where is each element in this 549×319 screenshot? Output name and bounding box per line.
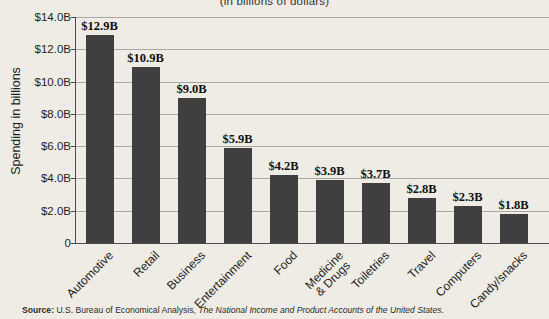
bar-value-label: $12.9B [65, 19, 135, 34]
y-axis-tick-label: $2.0B [11, 205, 71, 217]
source-body: U.S. Bureau of Economical Analysis, [54, 305, 198, 315]
x-axis-line [75, 243, 549, 244]
bar-chart-page: (in billions of dollars) Spending in bil… [0, 0, 549, 319]
source-prefix: Source: [22, 305, 54, 315]
x-category-label: Toiletries [349, 249, 391, 291]
x-category-label: Retail [131, 249, 161, 279]
bar-value-label: $1.8B [479, 198, 549, 213]
bar-value-label: $10.9B [111, 51, 181, 66]
bar [270, 175, 298, 243]
gridline [75, 17, 549, 18]
bar-value-label: $9.0B [157, 82, 227, 97]
y-axis-tick-label: $6.0B [11, 140, 71, 152]
y-axis-tick-label: $12.0B [11, 43, 71, 55]
bar [224, 148, 252, 243]
x-category-label: Travel [405, 249, 437, 281]
bar-value-label: $5.9B [203, 132, 273, 147]
y-axis-tick-label: $4.0B [11, 172, 71, 184]
bar [316, 180, 344, 243]
y-axis-tick-label: $10.0B [11, 76, 71, 88]
y-axis-tick-label: $8.0B [11, 108, 71, 120]
bar [178, 98, 206, 243]
bar [132, 67, 160, 243]
y-axis-line [75, 17, 76, 243]
x-category-label: Medicine& Drugs [303, 249, 354, 300]
y-axis-tick-label: $14.0B [11, 11, 71, 23]
bar [408, 198, 436, 243]
source-note: Source: U.S. Bureau of Economical Analys… [22, 305, 444, 315]
x-category-label: Business [164, 249, 207, 292]
y-axis-tick-label: 0 [11, 237, 71, 249]
bar [362, 183, 390, 243]
x-category-label: Food [271, 249, 299, 277]
bar [454, 206, 482, 243]
x-category-label: Automotive [64, 249, 115, 300]
source-work-title: The National Income and Product Accounts… [198, 305, 444, 315]
bar-value-label: $3.7B [341, 167, 411, 182]
bar [500, 214, 528, 243]
bar [86, 35, 114, 243]
chart-subtitle: (in billions of dollars) [0, 0, 549, 7]
